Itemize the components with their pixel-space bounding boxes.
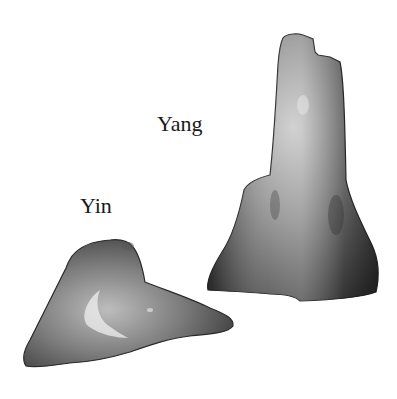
yang-label: Yang	[157, 113, 202, 135]
texture-overlay	[0, 0, 397, 399]
stones-illustration	[0, 0, 397, 399]
yin-label: Yin	[80, 195, 112, 217]
image-canvas: Yang Yin	[0, 0, 397, 399]
